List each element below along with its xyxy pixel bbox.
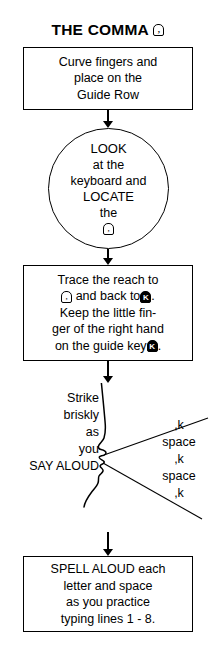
page-title: THE COMMA , [0, 20, 216, 39]
arrow-head-icon [103, 376, 113, 383]
speak-right-line-5: ,k [148, 485, 210, 502]
speak-left-line-1: Strike [0, 390, 99, 407]
speak-right-text: ,k space ,k space ,k [148, 417, 210, 502]
guide-key-keycap-glyph: K [149, 342, 155, 351]
look-key-row: , [103, 221, 114, 237]
page-title-text: THE COMMA [52, 21, 149, 38]
trace-line-4: ger of the right hand [52, 321, 164, 338]
speak-left-text: Strike briskly as you SAY ALOUD [0, 390, 99, 475]
arrow-down-to-speak [102, 361, 114, 383]
look-line-3: keyboard and [71, 173, 147, 189]
arrow-stem [107, 532, 109, 550]
look-line-4: LOCATE [83, 189, 134, 205]
guide-key-keycap-icon: K [147, 340, 158, 352]
trace-line-2: , and back toK. [61, 288, 155, 305]
spell-line-1: SPELL ALOUD each [51, 561, 166, 578]
trace-line-2-middle: and back to [76, 289, 141, 303]
spell-line-4: typing lines 1 - 8. [61, 611, 156, 628]
speak-right-line-3: ,k [148, 451, 210, 468]
speak-right-line-1: ,k [148, 417, 210, 434]
arrow-head-icon [103, 258, 113, 265]
k-keycap-icon: K [140, 291, 151, 303]
trace-line-5: on the guide keyK. [55, 338, 161, 355]
look-line-2: at the [93, 157, 124, 173]
guide-row-line-3: Guide Row [77, 87, 139, 104]
speak-left-line-5: SAY ALOUD [0, 458, 99, 475]
trace-line-1: Trace the reach to [58, 272, 159, 289]
guide-row-line-2: place on the [74, 70, 142, 87]
trace-line-5-after: . [158, 339, 161, 353]
comma-keycap-icon: , [61, 291, 72, 303]
step-box-trace: Trace the reach to , and back toK. Keep … [23, 265, 193, 361]
step-speak-aloud: Strike briskly as you SAY ALOUD ,k space… [0, 383, 216, 533]
step-box-guide-row: Curve fingers and place on the Guide Row [23, 47, 193, 110]
comma-keycap-glyph: , [66, 291, 68, 301]
look-line-5: the [100, 205, 117, 221]
k-keycap-glyph: K [143, 293, 149, 302]
comma-keycap-icon: , [103, 223, 114, 235]
spell-line-3: as you practice [66, 594, 150, 611]
look-line-1: LOOK [90, 141, 126, 157]
arrow-down-to-look [102, 110, 114, 128]
trace-line-2-after: . [151, 289, 154, 303]
arrow-down-to-trace [102, 249, 114, 265]
speak-left-line-3: as [0, 424, 99, 441]
arrow-down-to-spell [102, 532, 114, 556]
speak-right-line-2: space [148, 434, 210, 451]
speak-right-line-4: space [148, 468, 210, 485]
arrow-head-icon [103, 121, 113, 128]
arrow-head-icon [103, 549, 113, 556]
comma-keycap-glyph: , [107, 223, 109, 233]
trace-line-3: Keep the little fin- [60, 305, 157, 322]
comma-keycap-glyph: , [158, 24, 160, 34]
speak-left-line-2: briskly [0, 407, 99, 424]
arrow-stem [107, 361, 109, 377]
speak-left-line-4: you [0, 441, 99, 458]
comma-lesson-diagram: THE COMMA , Curve fingers and place on t… [0, 0, 216, 645]
trace-line-5-before: on the guide key [55, 339, 147, 353]
comma-keycap-icon: , [153, 24, 164, 36]
guide-row-line-1: Curve fingers and [59, 54, 158, 71]
step-box-spell-aloud: SPELL ALOUD each letter and space as you… [23, 556, 193, 632]
step-circle-look: LOOK at the keyboard and LOCATE the , [48, 128, 169, 249]
spell-line-2: letter and space [64, 578, 153, 595]
